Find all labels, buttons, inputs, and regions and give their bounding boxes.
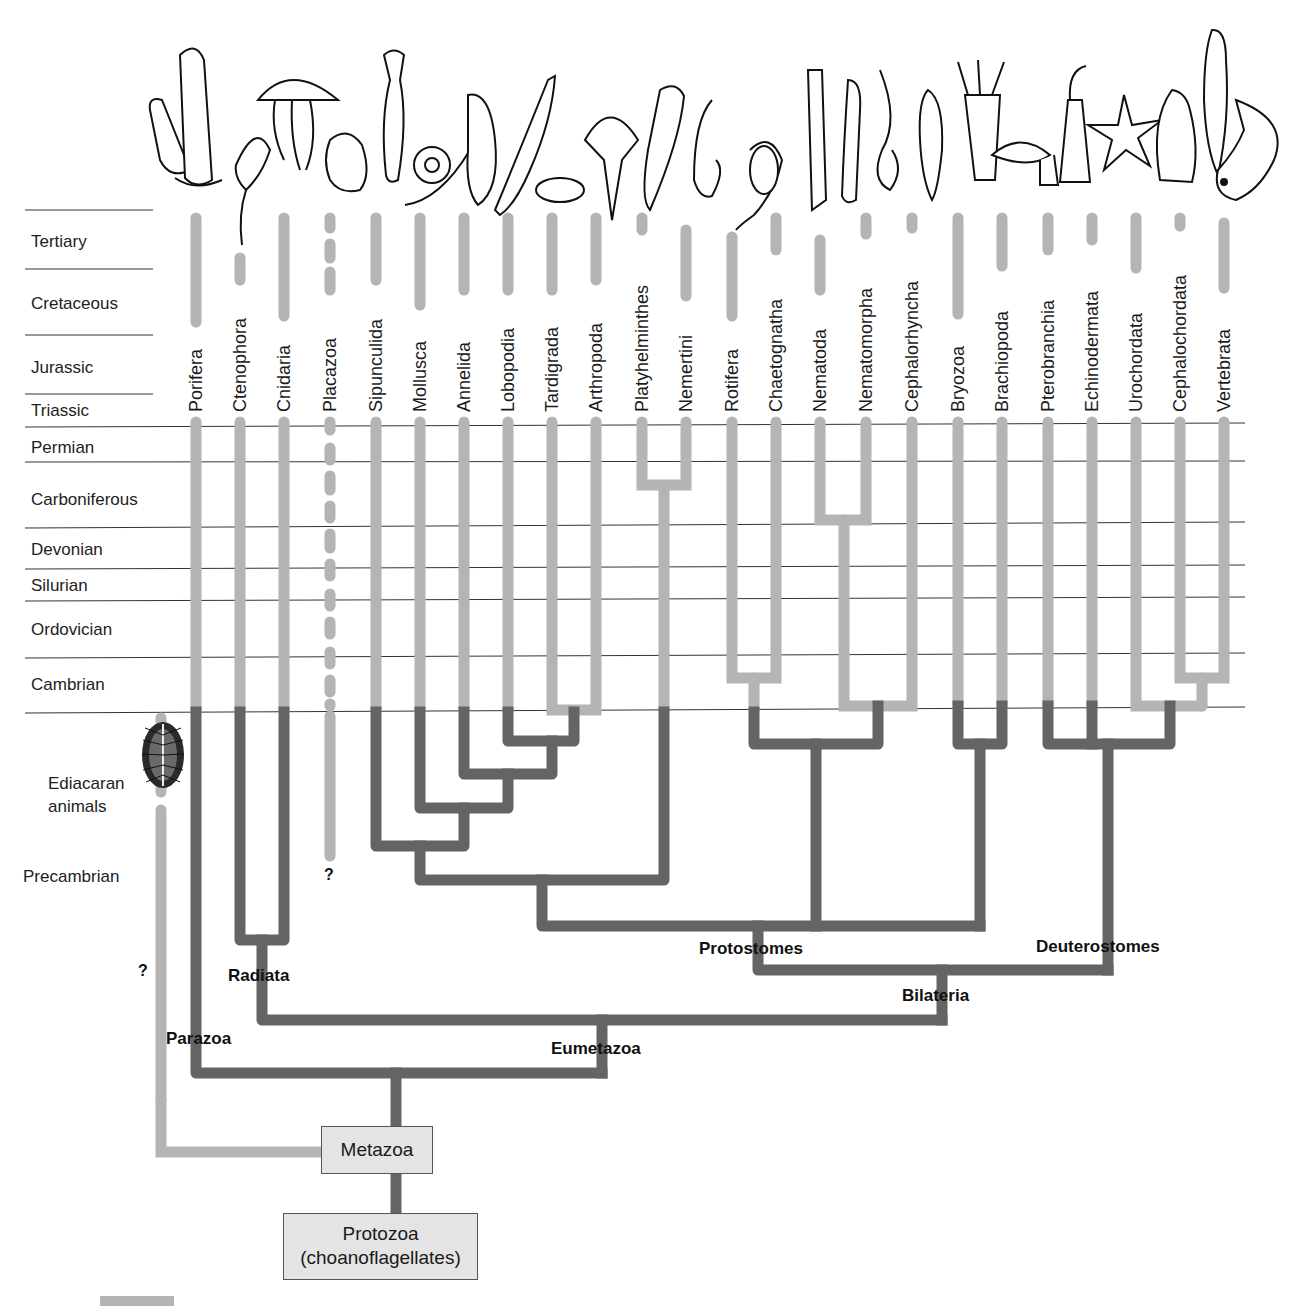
taxon-label-mollusca: Mollusca [410, 341, 431, 412]
period-label-precambrian: Precambrian [23, 867, 119, 887]
period-label-cretaceous: Cretaceous [31, 294, 118, 314]
taxon-label-lobopodia: Lobopodia [498, 328, 519, 412]
taxon-label-tardigrada: Tardigrada [542, 327, 563, 412]
period-label-jurassic: Jurassic [31, 358, 93, 378]
taxon-label-ctenophora: Ctenophora [230, 318, 251, 412]
taxon-label-arthropoda: Arthropoda [586, 323, 607, 412]
clade-label-radiata: Radiata [228, 966, 289, 986]
taxon-label-nemertini: Nemertini [676, 335, 697, 412]
period-label-ordovician: Ordovician [31, 620, 112, 640]
taxon-label-pterobranchia: Pterobranchia [1038, 300, 1059, 412]
taxon-label-bryozoa: Bryozoa [948, 346, 969, 412]
taxon-label-nematoda: Nematoda [810, 329, 831, 412]
period-label-silurian: Silurian [31, 576, 88, 596]
placozoan-icon [326, 134, 367, 192]
period-label-carboniferous: Carboniferous [31, 490, 138, 510]
snail-icon [405, 145, 474, 205]
taxon-label-cephalorhyncha: Cephalorhyncha [902, 281, 923, 412]
taxon-label-nematomorpha: Nematomorpha [856, 288, 877, 412]
phylogeny-diagram: Tertiary Cretaceous Jurassic Triassic Pe… [0, 0, 1309, 1306]
hairworm-icon [878, 70, 899, 190]
sponge-icon [150, 49, 222, 186]
tardigrade-icon [536, 178, 584, 202]
brachiopod-icon [992, 143, 1058, 186]
chaetognath-icon [808, 70, 826, 210]
taxon-label-platyhelminthes: Platyhelminthes [632, 285, 653, 412]
taxon-label-rotifera: Rotifera [722, 349, 743, 412]
taxon-label-chaetognatha: Chaetognatha [766, 299, 787, 412]
fossil-record-legend-swatch [100, 1296, 174, 1306]
sipunculid-icon [384, 51, 404, 182]
taxon-label-sipunculida: Sipunculida [366, 319, 387, 412]
clade-label-deuterostomes: Deuterostomes [1036, 937, 1160, 957]
clade-label-parazoa: Parazoa [166, 1029, 231, 1049]
taxon-label-porifera: Porifera [186, 349, 207, 412]
clade-label-protostomes: Protostomes [699, 939, 803, 959]
taxon-label-annelida: Annelida [454, 342, 475, 412]
taxon-label-brachiopoda: Brachiopoda [992, 311, 1013, 412]
nematode-icon [842, 80, 860, 202]
taxon-label-echinodermata: Echinodermata [1082, 291, 1103, 412]
annelid-icon [467, 95, 495, 205]
period-label-devonian: Devonian [31, 540, 103, 560]
period-label-permian: Permian [31, 438, 94, 458]
starfish-icon [1088, 95, 1162, 170]
ediacaran-label-line1: Ediacaran [48, 774, 125, 794]
placazoa-uncertain-marker: ? [324, 866, 334, 884]
ediacaran-fossil-icon [142, 722, 184, 788]
protozoa-label: Protozoa [284, 1222, 477, 1246]
clade-label-eumetazoa: Eumetazoa [551, 1039, 641, 1059]
animal-illustrations [150, 30, 1278, 245]
period-label-triassic: Triassic [31, 401, 89, 421]
lancelet-icon [1204, 30, 1227, 175]
period-label-cambrian: Cambrian [31, 675, 105, 695]
taxon-label-vertebrata: Vertebrata [1214, 329, 1235, 412]
taxon-label-placazoa: Placazoa [320, 338, 341, 412]
taxon-label-cephalochordata: Cephalochordata [1170, 275, 1191, 412]
metazoa-label: Metazoa [341, 1139, 414, 1160]
protozoa-box: Protozoa (choanoflagellates) [283, 1213, 478, 1280]
flatworm-icon [644, 86, 684, 210]
metazoa-box: Metazoa [321, 1126, 433, 1174]
ediacaran-label-line2: animals [48, 797, 107, 817]
taxon-label-urochordata: Urochordata [1126, 313, 1147, 412]
nemertean-icon [694, 100, 720, 197]
bryozoan-icon [958, 60, 1004, 180]
ctenophore-icon [236, 138, 270, 245]
choanoflagellates-label: (choanoflagellates) [284, 1246, 477, 1270]
priapulid-icon [920, 90, 943, 200]
clade-label-bilateria: Bilateria [902, 986, 969, 1006]
ediacaran-uncertain-marker: ? [138, 962, 148, 980]
taxon-label-cnidaria: Cnidaria [274, 345, 295, 412]
period-label-tertiary: Tertiary [31, 232, 87, 252]
tunicate-icon [1157, 90, 1196, 182]
horseshoe-crab-icon [585, 118, 638, 221]
tree-canvas [0, 0, 1309, 1306]
